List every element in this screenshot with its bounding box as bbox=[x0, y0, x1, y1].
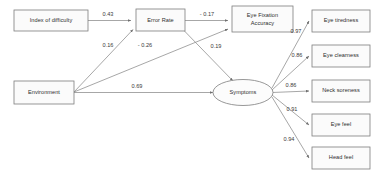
node-label-eye-fixation-accuracy-line2: Accuracy bbox=[251, 20, 275, 26]
coef-label-error-to-efa: - 0.17 bbox=[200, 11, 214, 17]
path-line-env-to-efa bbox=[74, 29, 228, 92]
node-label-eye-tiredness: Eye tiredness bbox=[324, 17, 359, 23]
node-label-index-of-difficulty: Index of difficulty bbox=[30, 17, 73, 23]
path-line-env-to-error bbox=[74, 30, 133, 93]
node-eye-fixation-accuracy bbox=[232, 6, 293, 32]
coef-label-symptoms-to-eye-clearness: 0.86 bbox=[292, 52, 303, 58]
node-label-eye-fixation-accuracy-line1: Eye Fixation bbox=[247, 12, 278, 18]
node-label-environment: Environment bbox=[28, 89, 60, 95]
coef-label-symptoms-to-head-feel: 0.94 bbox=[284, 136, 295, 142]
coef-label-error-to-symptoms: 0.19 bbox=[211, 43, 222, 49]
path-line-symptoms-to-neck-soreness bbox=[272, 91, 309, 93]
node-label-eye-clearness: Eye clearness bbox=[323, 52, 359, 58]
coef-label-id-to-error: 0.43 bbox=[103, 11, 114, 17]
node-label-head-feel: Head feel bbox=[329, 154, 353, 160]
coef-label-symptoms-to-neck-soreness: 0.86 bbox=[286, 82, 297, 88]
node-label-neck-soreness: Neck soreness bbox=[322, 87, 360, 93]
node-label-symptoms: Symptoms bbox=[230, 89, 257, 95]
coef-label-symptoms-to-eye-tiredness: 0.97 bbox=[291, 28, 302, 34]
coef-label-env-to-symptoms: 0.69 bbox=[132, 83, 143, 89]
coef-label-env-to-error: 0.16 bbox=[103, 42, 114, 48]
node-label-error-rate: Error Rate bbox=[147, 17, 173, 23]
path-diagram: Index of difficulty Error Rate Eye Fixat… bbox=[0, 0, 379, 174]
coef-label-symptoms-to-eye-feel: 0.91 bbox=[287, 106, 298, 112]
node-label-eye-feel: Eye feel bbox=[331, 121, 352, 127]
coef-label-env-to-efa: - 0.26 bbox=[138, 42, 152, 48]
